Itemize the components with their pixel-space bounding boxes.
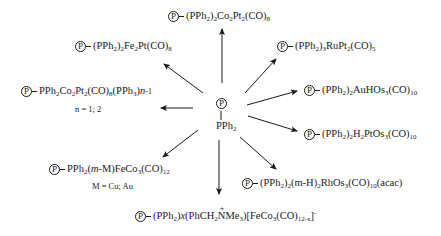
polymer-support-icon: P <box>304 129 315 140</box>
polymer-support-icon: P <box>75 41 86 52</box>
product-left-note: n = 1; 2 <box>75 104 101 114</box>
bond-dash <box>288 46 293 47</box>
formula-text: PPh2Co2Pt2(CO)8(PPh3)n-1 <box>39 85 152 98</box>
product-top: P(PPh2)2Co2Pt2(CO)8 <box>168 10 270 22</box>
polymer-support-icon: P <box>304 85 315 96</box>
product-bottom: P(PPh2)x(PhCH2N+Me3)[FeCo3(CO)12-x]- <box>135 210 316 222</box>
center-group-label: PPh2 <box>216 120 236 131</box>
formula-text: (PPh2)2(m-H)2RhOs3(CO)10(acac) <box>260 177 402 189</box>
arrow-to-right-upper <box>247 91 297 105</box>
formula-text: (PPh2)2AuHOs3(CO)10 <box>322 84 417 96</box>
formula-text: (PPh2)x(PhCH2N+Me3)[FeCo3(CO)12-x]- <box>153 210 316 222</box>
arrow-to-right-lower <box>248 116 297 131</box>
product-lower-left: PPPh2(m-M)FeCo3(CO)12 <box>49 163 170 175</box>
bond-dash <box>32 91 37 92</box>
polymer-support-icon: P <box>49 164 60 175</box>
product-upper-left: P(PPh2)2Fe2Pt(CO)8 <box>75 40 172 52</box>
product-right-upper: P(PPh2)2AuHOs3(CO)10 <box>304 84 417 96</box>
bond-dash <box>179 16 184 17</box>
polymer-support-icon: P <box>135 211 146 222</box>
formula-text: (PPh2)2Co2Pt2(CO)8 <box>186 10 270 22</box>
bond-dash <box>86 46 91 47</box>
product-lower-right: P(PPh2)2(m-H)2RhOs3(CO)10(acac) <box>242 177 402 189</box>
arrow-to-upper-right <box>245 59 276 93</box>
bond-dash <box>315 134 320 135</box>
product-lower-left-note: M = Cu; Au <box>92 181 133 191</box>
polymer-support-icon: P <box>242 178 253 189</box>
product-right-lower: P(PPh2)2H2PtOs3(CO)10 <box>304 128 417 140</box>
arrow-to-lower-left <box>163 130 198 157</box>
polymer-support-icon: P <box>168 11 179 22</box>
bond-dash <box>315 90 320 91</box>
formula-text: (PPh2)2Fe2Pt(CO)8 <box>93 40 172 52</box>
arrow-layer <box>0 0 441 236</box>
bond-dash <box>253 183 258 184</box>
formula-text: (PPh2)3RuPt2(CO)5 <box>295 40 376 52</box>
polymer-support-icon: P <box>277 41 288 52</box>
bond-dash <box>60 169 65 170</box>
product-left: PPPh2Co2Pt2(CO)8(PPh3)n-1 <box>21 85 152 98</box>
product-upper-right: P(PPh2)3RuPt2(CO)5 <box>277 40 376 52</box>
polymer-support-icon: P <box>21 86 32 97</box>
arrow-to-upper-left <box>164 64 203 93</box>
bond-dash <box>146 216 151 217</box>
formula-text: (PPh2)2H2PtOs3(CO)10 <box>322 128 417 140</box>
center-support-circle: P <box>216 98 227 109</box>
arrow-to-lower-right <box>240 137 276 169</box>
formula-text: PPh2(m-M)FeCo3(CO)12 <box>67 163 170 175</box>
